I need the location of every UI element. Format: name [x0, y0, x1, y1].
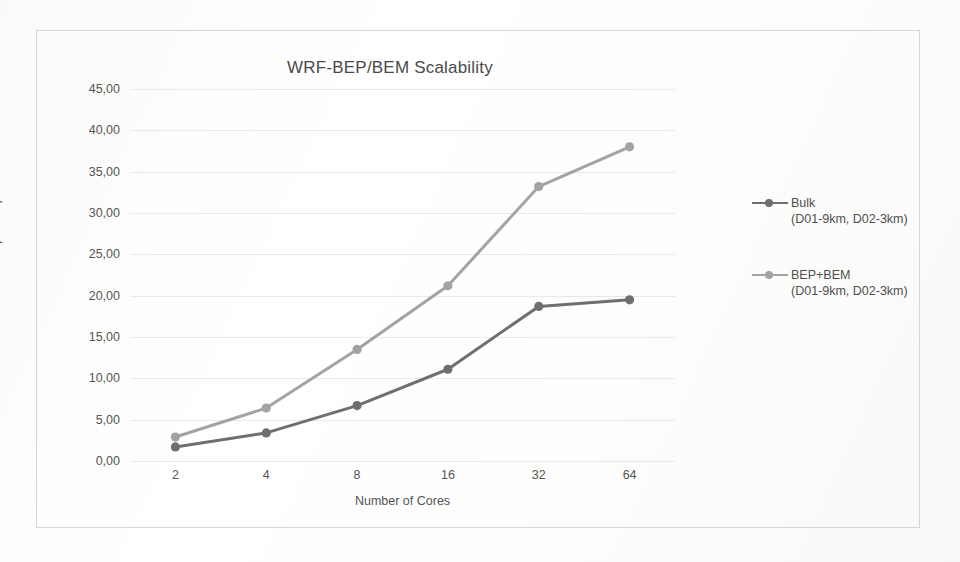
legend-series-name: BEP+BEM: [791, 268, 850, 282]
data-point-marker: [262, 428, 271, 437]
series-layer: [130, 89, 675, 461]
x-tick-label: 2: [145, 468, 205, 482]
y-tick-label: 45,00: [60, 82, 120, 96]
legend-series-name: Bulk: [791, 196, 815, 210]
plot-area: [130, 89, 675, 461]
data-point-marker: [534, 302, 543, 311]
x-tick-label: 64: [600, 468, 660, 482]
legend-marker-icon: [752, 197, 788, 209]
y-tick-label: 20,00: [60, 289, 120, 303]
y-tick-label: 35,00: [60, 165, 120, 179]
y-axis-tick-labels: 0,005,0010,0015,0020,0025,0030,0035,0040…: [58, 89, 120, 461]
y-axis-title: Speed Up: [0, 196, 2, 252]
x-tick-label: 16: [418, 468, 478, 482]
chart-legend: Bulk(D01-9km, D02-3km)BEP+BEM(D01-9km, D…: [752, 196, 942, 340]
data-point-marker: [171, 442, 180, 451]
x-axis-tick-labels: 248163264: [130, 468, 675, 488]
data-point-marker: [443, 365, 452, 374]
legend-series-sublabel: (D01-9km, D02-3km): [791, 212, 942, 226]
y-tick-label: 30,00: [60, 206, 120, 220]
data-point-marker: [171, 432, 180, 441]
x-tick-label: 32: [509, 468, 569, 482]
legend-series-sublabel: (D01-9km, D02-3km): [791, 284, 942, 298]
y-tick-label: 25,00: [60, 247, 120, 261]
legend-marker-icon: [752, 269, 788, 281]
data-point-marker: [262, 403, 271, 412]
x-axis-title: Number of Cores: [130, 494, 675, 508]
data-point-marker: [534, 182, 543, 191]
legend-row: Bulk: [752, 196, 942, 210]
legend-entry[interactable]: Bulk(D01-9km, D02-3km): [752, 196, 942, 226]
legend-row: BEP+BEM: [752, 268, 942, 282]
y-tick-label: 5,00: [60, 413, 120, 427]
gridline: [130, 461, 675, 462]
y-tick-label: 15,00: [60, 330, 120, 344]
data-point-marker: [443, 281, 452, 290]
series-line: [175, 147, 629, 437]
y-tick-label: 10,00: [60, 371, 120, 385]
data-point-marker: [352, 401, 361, 410]
series-line: [175, 300, 629, 447]
data-point-marker: [352, 345, 361, 354]
x-tick-label: 4: [236, 468, 296, 482]
data-point-marker: [625, 295, 634, 304]
chart-title: WRF-BEP/BEM Scalability: [180, 58, 600, 78]
legend-entry[interactable]: BEP+BEM(D01-9km, D02-3km): [752, 268, 942, 298]
y-tick-label: 40,00: [60, 123, 120, 137]
data-point-marker: [625, 142, 634, 151]
y-tick-label: 0,00: [60, 454, 120, 468]
x-tick-label: 8: [327, 468, 387, 482]
